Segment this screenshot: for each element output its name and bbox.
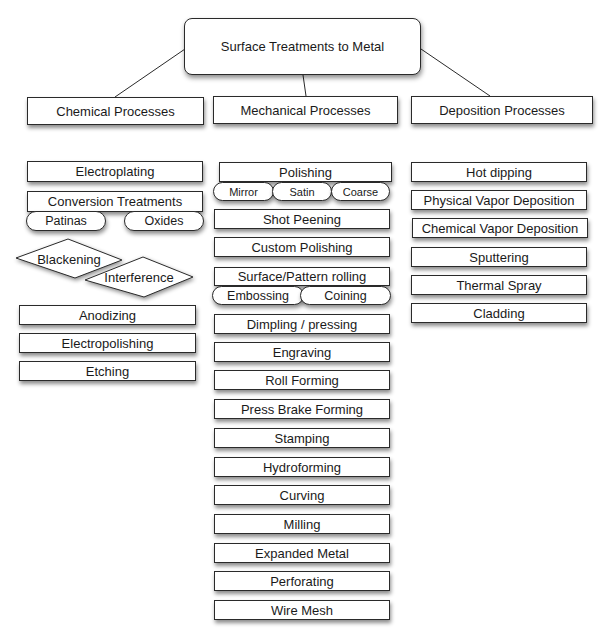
item-expanded-metal: Expanded Metal bbox=[214, 543, 390, 563]
category-label: Deposition Processes bbox=[439, 103, 565, 118]
diamond-label: Interference bbox=[85, 257, 193, 297]
item-etching: Etching bbox=[19, 361, 196, 381]
subitem-label: Embossing bbox=[227, 289, 289, 303]
item-label: Stamping bbox=[275, 431, 330, 446]
subitem-label: Oxides bbox=[145, 214, 184, 228]
item-conversion-treatments: Conversion Treatments bbox=[27, 191, 203, 212]
subitem-label: Mirror bbox=[229, 186, 258, 198]
subitem-embossing: Embossing bbox=[212, 286, 304, 305]
item-label: Thermal Spray bbox=[456, 278, 541, 293]
root-label: Surface Treatments to Metal bbox=[221, 39, 384, 54]
item-label: Expanded Metal bbox=[255, 546, 349, 561]
subitem-mirror: Mirror bbox=[213, 182, 274, 201]
item-cladding: Cladding bbox=[411, 303, 587, 323]
subitem-satin: Satin bbox=[272, 182, 332, 201]
item-label: Shot Peening bbox=[263, 212, 341, 227]
item-perforating: Perforating bbox=[214, 571, 390, 591]
item-custom-polishing: Custom Polishing bbox=[214, 237, 390, 257]
subitem-label: Coarse bbox=[343, 186, 378, 198]
item-press-brake-forming: Press Brake Forming bbox=[214, 399, 390, 419]
item-label: Press Brake Forming bbox=[241, 402, 363, 417]
item-label: Dimpling / pressing bbox=[247, 317, 358, 332]
item-label: Engraving bbox=[273, 345, 332, 360]
category-chemical-processes: Chemical Processes bbox=[27, 97, 204, 125]
item-label: Electropolishing bbox=[62, 336, 154, 351]
connector-root-mechanical bbox=[303, 75, 306, 96]
item-wire-mesh: Wire Mesh bbox=[214, 600, 390, 620]
connector-root-deposition bbox=[421, 49, 490, 96]
item-label: Custom Polishing bbox=[251, 240, 352, 255]
item-hydroforming: Hydroforming bbox=[214, 457, 390, 477]
connector-root-chemical bbox=[115, 49, 185, 97]
category-deposition-processes: Deposition Processes bbox=[411, 96, 593, 124]
subitem-coarse: Coarse bbox=[331, 182, 390, 201]
item-label: Cladding bbox=[473, 306, 524, 321]
item-engraving: Engraving bbox=[214, 342, 390, 362]
diamond-interference: Interference bbox=[85, 257, 193, 297]
item-label: Curving bbox=[280, 488, 325, 503]
item-electroplating: Electroplating bbox=[27, 161, 203, 182]
item-physical-vapor-deposition: Physical Vapor Deposition bbox=[411, 190, 587, 210]
item-surface-pattern-rolling: Surface/Pattern rolling bbox=[214, 267, 390, 286]
item-label: Conversion Treatments bbox=[48, 194, 182, 209]
item-label: Milling bbox=[284, 517, 321, 532]
item-label: Etching bbox=[86, 364, 129, 379]
item-label: Wire Mesh bbox=[271, 603, 333, 618]
item-label: Surface/Pattern rolling bbox=[238, 269, 367, 284]
diagram-canvas: Surface Treatments to Metal Chemical Pro… bbox=[0, 0, 602, 640]
item-sputtering: Sputtering bbox=[411, 247, 587, 267]
item-label: Physical Vapor Deposition bbox=[424, 193, 575, 208]
item-label: Hydroforming bbox=[263, 460, 341, 475]
category-label: Mechanical Processes bbox=[240, 103, 370, 118]
category-mechanical-processes: Mechanical Processes bbox=[213, 96, 398, 124]
category-label: Chemical Processes bbox=[56, 104, 175, 119]
subitem-coining: Coining bbox=[300, 286, 391, 305]
subitem-label: Satin bbox=[289, 186, 314, 198]
item-curving: Curving bbox=[214, 485, 390, 505]
item-shot-peening: Shot Peening bbox=[214, 209, 390, 229]
item-milling: Milling bbox=[214, 514, 390, 534]
item-label: Roll Forming bbox=[265, 373, 339, 388]
item-dimpling-pressing: Dimpling / pressing bbox=[214, 314, 390, 334]
item-chemical-vapor-deposition: Chemical Vapor Deposition bbox=[412, 218, 588, 238]
item-thermal-spray: Thermal Spray bbox=[411, 275, 587, 295]
item-label: Hot dipping bbox=[466, 165, 532, 180]
item-label: Chemical Vapor Deposition bbox=[422, 221, 579, 236]
subitem-label: Patinas bbox=[45, 214, 87, 228]
item-label: Anodizing bbox=[79, 308, 136, 323]
item-electropolishing: Electropolishing bbox=[19, 333, 196, 353]
item-hot-dipping: Hot dipping bbox=[411, 162, 587, 182]
item-anodizing: Anodizing bbox=[19, 305, 196, 325]
item-label: Perforating bbox=[270, 574, 334, 589]
root-node: Surface Treatments to Metal bbox=[184, 18, 421, 75]
item-label: Electroplating bbox=[76, 164, 155, 179]
subitem-patinas: Patinas bbox=[26, 211, 106, 231]
item-roll-forming: Roll Forming bbox=[214, 370, 390, 390]
item-stamping: Stamping bbox=[214, 428, 390, 448]
item-label: Sputtering bbox=[469, 250, 528, 265]
item-polishing: Polishing bbox=[219, 162, 392, 182]
item-label: Polishing bbox=[279, 165, 332, 180]
subitem-label: Coining bbox=[324, 289, 366, 303]
subitem-oxides: Oxides bbox=[124, 211, 204, 231]
